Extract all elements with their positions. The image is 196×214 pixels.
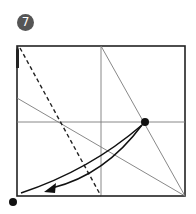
- fold-arrow-inner-curve: [52, 125, 142, 188]
- reference-point-dot: [141, 118, 149, 126]
- fold-diagram: [0, 0, 196, 214]
- edge-arrow-icon: [16, 46, 19, 68]
- target-point-dot: [9, 198, 17, 206]
